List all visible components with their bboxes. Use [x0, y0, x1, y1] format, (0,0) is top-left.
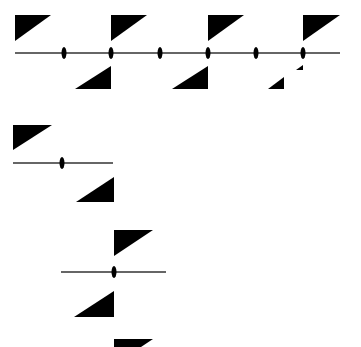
hinge-icon	[254, 47, 259, 59]
cantilever-hinge-beam	[61, 230, 166, 347]
top-triangle	[208, 15, 244, 41]
hinge-icon	[62, 47, 67, 59]
bottom-triangle	[296, 65, 303, 70]
hinge-icon	[301, 47, 306, 59]
hinge-icon	[109, 47, 114, 59]
bottom-triangle	[268, 77, 284, 89]
single-span-beam	[13, 125, 114, 202]
hinge-icon	[60, 157, 65, 169]
hinge-icon	[158, 47, 163, 59]
top-triangle	[15, 15, 51, 41]
hinge-icon	[112, 266, 117, 278]
top-triangle	[114, 339, 153, 347]
multi-span-beam	[15, 15, 340, 89]
top-triangle	[114, 230, 153, 256]
top-triangle	[303, 15, 340, 41]
bottom-triangle	[75, 66, 111, 89]
bottom-triangle	[172, 66, 208, 89]
beam-diagram	[0, 0, 361, 347]
bottom-triangle	[74, 291, 114, 317]
top-triangle	[111, 15, 147, 41]
hinge-icon	[206, 47, 211, 59]
top-triangle	[13, 125, 52, 150]
bottom-triangle	[76, 177, 114, 202]
